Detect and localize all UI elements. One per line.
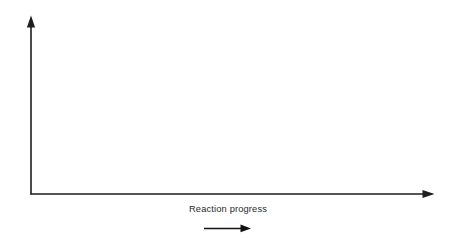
x-axis-arrowhead-icon: [423, 190, 435, 198]
x-axis-label: Reaction progress: [0, 204, 456, 215]
reaction-direction-arrowhead-icon: [241, 225, 252, 233]
reaction-progress-figure: Reaction progress: [0, 0, 456, 238]
axes-canvas: [0, 0, 456, 238]
y-axis-arrowhead-icon: [27, 16, 35, 28]
